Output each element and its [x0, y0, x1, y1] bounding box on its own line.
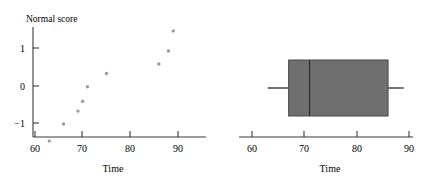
- scatter-point: [105, 72, 108, 75]
- box-x-tick-label-90: 90: [404, 143, 414, 154]
- figure-root: Normal score 1 0 −1 60 70 80: [0, 0, 426, 183]
- scatter-point: [62, 122, 65, 125]
- scatter-point: [81, 100, 84, 103]
- scatter-plot-panel: Normal score 1 0 −1 60 70 80: [0, 0, 213, 183]
- box-x-ticks: [252, 131, 409, 137]
- scatter-y-tick-label-neg1: −1: [14, 118, 25, 129]
- scatter-y-ticks: [33, 48, 39, 123]
- box-x-tick-label-60: 60: [247, 143, 257, 154]
- scatter-y-tick-label-1: 1: [20, 43, 25, 54]
- scatter-data-points: [48, 29, 175, 143]
- scatter-y-tick-label-0: 0: [20, 81, 25, 92]
- scatter-x-tick-label-90: 90: [173, 143, 183, 154]
- scatter-x-tick-label-70: 70: [77, 143, 87, 154]
- scatter-point: [167, 49, 170, 52]
- scatter-plot-svg: Normal score 1 0 −1 60 70 80: [0, 0, 213, 183]
- scatter-point: [157, 62, 160, 65]
- scatter-point: [48, 139, 51, 142]
- scatter-point: [76, 109, 79, 112]
- box-plot-graphic: [268, 60, 404, 116]
- box-plot-svg: 60 70 80 90 Time: [213, 0, 426, 183]
- scatter-x-tick-label-80: 80: [125, 143, 135, 154]
- scatter-x-axis-title: Time: [103, 163, 124, 174]
- scatter-point: [86, 85, 89, 88]
- box-rectangle: [289, 60, 388, 116]
- box-x-tick-label-80: 80: [352, 143, 362, 154]
- scatter-y-axis-title: Normal score: [26, 14, 77, 24]
- scatter-x-tick-label-60: 60: [30, 143, 40, 154]
- scatter-x-ticks: [35, 131, 178, 137]
- scatter-point: [172, 29, 175, 32]
- box-plot-panel: 60 70 80 90 Time: [213, 0, 426, 183]
- box-x-tick-label-70: 70: [299, 143, 309, 154]
- box-x-axis-title: Time: [320, 163, 341, 174]
